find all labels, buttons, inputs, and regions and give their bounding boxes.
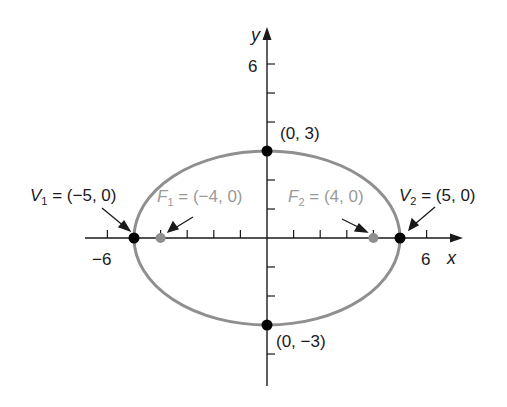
x-tick-label-neg6: −6: [92, 250, 111, 269]
diagram-canvas: y x −6 6 6 (0, 3) (0, −3) V1 = (−5, 0) F…: [0, 0, 507, 407]
vertex-v1-point: [129, 233, 140, 244]
top-endpoint-point: [262, 146, 273, 157]
f1-label: F1 = (−4, 0): [157, 187, 243, 208]
vertex-v2-point: [395, 233, 406, 244]
v1-label: V1 = (−5, 0): [30, 186, 116, 207]
x-axis-arrow-icon: [450, 234, 463, 243]
focus-f1-point: [156, 233, 166, 243]
top-endpoint-label: (0, 3): [280, 124, 320, 143]
f2-label: F2 = (4, 0): [288, 187, 364, 208]
v2-label: V2 = (5, 0): [399, 186, 476, 207]
y-ticks: [267, 64, 275, 354]
focus-f2-point: [368, 233, 378, 243]
bottom-endpoint-point: [262, 320, 273, 331]
bottom-endpoint-label: (0, −3): [276, 332, 326, 351]
y-axis-arrow-icon: [263, 27, 272, 40]
x-axis-label: x: [446, 248, 457, 268]
y-tick-label-6: 6: [248, 57, 257, 76]
ellipse-diagram: y x −6 6 6 (0, 3) (0, −3) V1 = (−5, 0) F…: [0, 0, 507, 407]
annotation-arrows: [102, 207, 435, 232]
y-axis-label: y: [249, 25, 261, 45]
x-tick-label-6: 6: [421, 250, 430, 269]
